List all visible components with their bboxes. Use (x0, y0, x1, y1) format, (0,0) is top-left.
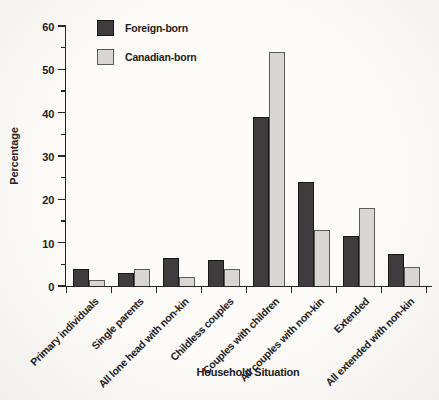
bar-canadian-born (89, 280, 105, 287)
x-tick (291, 287, 292, 293)
bar-canadian-born (269, 52, 285, 286)
y-major-tick (58, 199, 66, 200)
y-tick-label: 40 (24, 108, 54, 120)
legend-item-canadian-born: Canadian-born (97, 49, 197, 65)
bar-group (291, 182, 336, 286)
bar-group (66, 269, 111, 286)
bar-group (246, 52, 291, 286)
y-major-tick (58, 69, 66, 70)
x-tick (426, 287, 427, 293)
bar-foreign-born (73, 269, 89, 286)
legend-item-foreign-born: Foreign-born (97, 20, 197, 36)
foreign-born-swatch-icon (97, 20, 114, 36)
x-tick (156, 287, 157, 293)
y-minor-tick (61, 177, 66, 178)
legend-label-canadian-born: Canadian-born (125, 51, 197, 63)
y-tick-label: 20 (24, 194, 54, 206)
bar-canadian-born (404, 267, 420, 287)
y-minor-tick (61, 134, 66, 135)
y-minor-tick (61, 264, 66, 265)
x-axis-title: Household Situation (65, 366, 431, 378)
y-major-tick (58, 112, 66, 113)
bar-group (336, 208, 381, 286)
bar-canadian-born (314, 230, 330, 286)
y-tick-label: 10 (24, 238, 54, 250)
x-tick (381, 287, 382, 293)
bar-foreign-born (343, 236, 359, 286)
bar-foreign-born (253, 117, 269, 286)
y-minor-tick (61, 47, 66, 48)
bar-group (156, 258, 201, 286)
x-tick (246, 287, 247, 293)
y-major-tick (58, 285, 66, 286)
y-tick-label: 60 (24, 21, 54, 33)
bar-group (111, 269, 156, 286)
x-tick (111, 287, 112, 293)
bar-canadian-born (179, 277, 195, 286)
household-situation-bar-chart: Percentage 0102030405060Primary individu… (0, 0, 439, 400)
bar-foreign-born (208, 260, 224, 286)
y-minor-tick (61, 90, 66, 91)
x-tick (66, 287, 67, 293)
bar-foreign-born (118, 273, 134, 286)
bar-foreign-born (163, 258, 179, 286)
y-minor-tick (61, 220, 66, 221)
y-tick-label: 50 (24, 64, 54, 76)
x-category-label: Couples with children (200, 295, 281, 376)
y-axis-title: Percentage (8, 127, 20, 184)
bar-canadian-born (134, 269, 150, 286)
x-tick (336, 287, 337, 293)
bar-group (201, 260, 246, 286)
bar-canadian-born (224, 269, 240, 286)
bar-foreign-born (388, 254, 404, 287)
x-category-label: Extended (331, 295, 371, 335)
canadian-born-swatch-icon (97, 49, 114, 65)
legend: Foreign-born Canadian-born (97, 20, 197, 78)
bar-canadian-born (359, 208, 375, 286)
y-tick-label: 30 (24, 151, 54, 163)
bar-foreign-born (298, 182, 314, 286)
x-tick (201, 287, 202, 293)
bar-group (381, 254, 426, 287)
y-major-tick (58, 25, 66, 26)
legend-label-foreign-born: Foreign-born (125, 22, 188, 34)
y-tick-label: 0 (24, 281, 54, 293)
y-major-tick (58, 155, 66, 156)
x-category-label: Primary individuals (28, 295, 101, 368)
y-major-tick (58, 242, 66, 243)
